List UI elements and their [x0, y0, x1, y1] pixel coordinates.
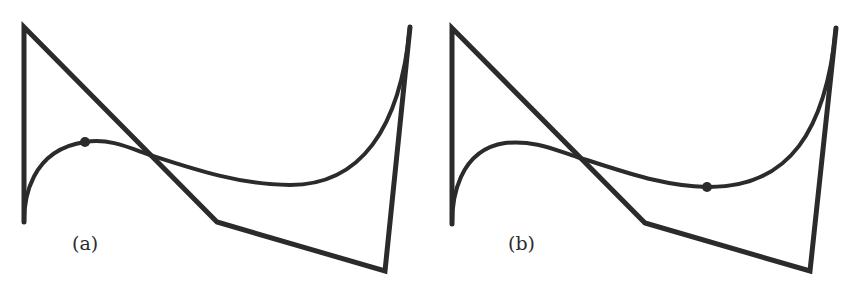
marked-point-a [80, 137, 90, 147]
bezier-curve-b [452, 28, 836, 224]
figure-canvas [0, 0, 855, 293]
panel-label-b: (b) [508, 232, 535, 254]
panel-label-a: (a) [72, 232, 98, 254]
bezier-curve-a [24, 27, 410, 222]
marked-point-b [702, 182, 712, 192]
